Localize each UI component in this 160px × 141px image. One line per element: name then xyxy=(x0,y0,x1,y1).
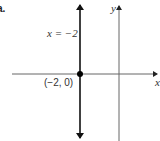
coordinate-graph: a. x = −2 (−2, 0) y x xyxy=(0,0,160,141)
graph-canvas xyxy=(0,0,160,141)
x-axis-label: x xyxy=(155,77,160,88)
point-label: (−2, 0) xyxy=(44,78,73,88)
line-equation-label: x = −2 xyxy=(47,28,78,39)
part-label: a. xyxy=(0,4,5,14)
point-neg2-0 xyxy=(77,71,83,77)
y-axis-label: y xyxy=(111,3,116,14)
